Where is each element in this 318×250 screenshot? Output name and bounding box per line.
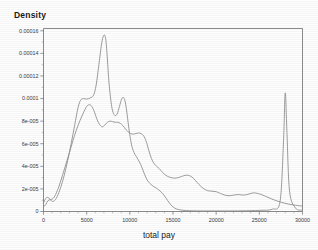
x-tick-label: 30000	[295, 217, 310, 223]
chart-canvas: 02e-0054e-0056e-0058e-0050.00010.000120.…	[0, 0, 318, 250]
y-tick-label: 0	[36, 208, 39, 214]
x-tick-label: 25000	[252, 217, 267, 223]
y-tick-label: 0.0001	[22, 95, 39, 101]
y-tick-label: 0.00016	[19, 28, 39, 34]
density-curve-curve-b	[44, 105, 303, 207]
density-plot-figure: Density 02e-0054e-0056e-0058e-0050.00010…	[0, 0, 318, 250]
y-tick-label: 2e-005	[22, 186, 39, 192]
y-tick-label: 4e-005	[22, 163, 39, 169]
y-tick-label: 0.00012	[19, 73, 39, 79]
y-tick-label: 8e-005	[22, 118, 39, 124]
x-tick-label: 0	[42, 217, 45, 223]
x-tick-label: 20000	[209, 217, 224, 223]
density-curve-curve-a	[44, 35, 303, 211]
y-tick-label: 0.00014	[19, 50, 39, 56]
x-tick-label: 10000	[122, 217, 137, 223]
x-tick-label: 5000	[81, 217, 93, 223]
x-axis-title: total pay	[0, 230, 318, 240]
x-tick-label: 15000	[166, 217, 181, 223]
plot-frame	[44, 29, 303, 212]
y-tick-label: 6e-005	[22, 141, 39, 147]
